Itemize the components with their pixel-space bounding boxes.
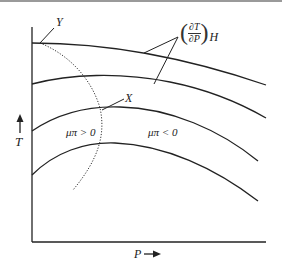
up-arrow-icon (17, 114, 24, 122)
subscript: H (210, 30, 219, 45)
leader-line-y (40, 28, 54, 43)
y-axis-label: T (15, 135, 22, 148)
right-arrow-icon (153, 251, 161, 258)
partial-derivative: ∂T ∂P (188, 22, 201, 44)
region-label-positive: μπ > 0 (66, 127, 95, 138)
isenthalp-curve-4 (32, 143, 258, 201)
region-label-negative: μπ < 0 (148, 127, 177, 138)
isenthalp-curve-2 (32, 75, 266, 118)
inversion-curve (40, 43, 102, 190)
slope-label: ( ∂T ∂P ) H (180, 20, 218, 44)
leader-line-slope-2 (154, 37, 178, 84)
denominator: ∂P (189, 34, 200, 45)
point-label-x: X (125, 92, 132, 104)
numerator: ∂T (188, 22, 201, 34)
x-axis-label: P (134, 248, 141, 260)
left-paren: ( (180, 20, 188, 44)
point-label-y: Y (56, 16, 63, 28)
leader-line-x (102, 99, 124, 110)
right-paren: ) (201, 20, 209, 44)
diagram-canvas (0, 0, 282, 273)
leader-line-slope-1 (144, 37, 178, 53)
